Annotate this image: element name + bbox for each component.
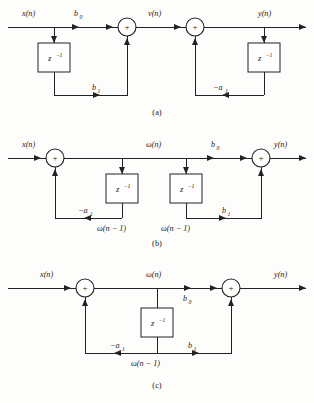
delay-block-b-left-exponent: −1 bbox=[124, 183, 131, 189]
label-b-output: y(n) bbox=[273, 140, 287, 149]
label-a-b0-subscript: 0 bbox=[80, 14, 83, 20]
label-a-b1: b bbox=[92, 83, 96, 92]
arrowhead-b-into-adder2 bbox=[240, 155, 247, 161]
label-c-a1-subscript: 1 bbox=[122, 346, 125, 352]
label-c-state-delayed: ω(n − 1) bbox=[131, 359, 160, 368]
arrowhead-a-into-delay-right bbox=[261, 36, 267, 43]
arrowhead-c-rail-into-adder1 bbox=[82, 299, 88, 306]
delay-block-a-right-exponent: −1 bbox=[266, 52, 273, 58]
arrowhead-b-into-delay-right bbox=[183, 167, 189, 174]
arrowhead-c-output bbox=[299, 285, 306, 291]
arrowhead-a-b0 bbox=[72, 24, 79, 30]
arrowhead-a-into-adder1 bbox=[106, 24, 113, 30]
delay-block-a-left[interactable] bbox=[38, 43, 70, 72]
adder-a-1-symbol: + bbox=[124, 22, 129, 32]
delay-block-a-right-label: z bbox=[257, 53, 262, 63]
label-a-a1-subscript: 1 bbox=[225, 88, 228, 94]
adder-c-1-symbol: + bbox=[82, 283, 87, 293]
caption-a: (a) bbox=[152, 108, 162, 117]
label-a-intermediate: v(n) bbox=[148, 9, 161, 18]
label-b-state-delayed-left: ω(n − 1) bbox=[97, 224, 126, 233]
label-b-b0-subscript: 0 bbox=[217, 145, 220, 151]
arrowhead-b-into-adder1 bbox=[34, 155, 41, 161]
delay-block-a-left-label: z bbox=[47, 53, 52, 63]
adder-a-2-symbol: + bbox=[192, 22, 197, 32]
arrowhead-b-rail-into-adder2 bbox=[258, 169, 264, 176]
arrowhead-b-b1-rail bbox=[219, 215, 226, 221]
arrowhead-b-b0 bbox=[207, 155, 214, 161]
adder-c-2-symbol: + bbox=[228, 283, 233, 293]
label-b-b0: b bbox=[211, 140, 215, 149]
delay-block-a-left-exponent: −1 bbox=[56, 52, 63, 58]
arrowhead-c-b0 bbox=[184, 285, 191, 291]
label-c-output: y(n) bbox=[273, 270, 287, 279]
panel-b: z −1 z −1 + + x(n) ω(n) b 0 y(n) −a 1 b … bbox=[8, 140, 306, 248]
arrowhead-c-rail-into-adder2 bbox=[228, 299, 234, 306]
adder-b-1-symbol: + bbox=[52, 153, 57, 163]
label-b-a1: −a bbox=[78, 206, 88, 215]
delay-block-b-right-label: z bbox=[179, 184, 184, 194]
adder-b-2-symbol: + bbox=[258, 153, 263, 163]
delay-block-b-right[interactable] bbox=[170, 174, 202, 203]
label-c-b1-subscript: 1 bbox=[194, 346, 197, 352]
label-a-b1-subscript: 1 bbox=[98, 88, 101, 94]
panel-c: z −1 + + x(n) ω(n) b 0 y(n) −a 1 b 1 ω(n… bbox=[8, 270, 306, 390]
delay-block-a-right[interactable] bbox=[248, 43, 280, 72]
arrowhead-a-output bbox=[299, 24, 306, 30]
label-a-output: y(n) bbox=[257, 9, 271, 18]
arrowhead-a-into-adder2 bbox=[174, 24, 181, 30]
delay-block-c-exponent: −1 bbox=[159, 317, 166, 323]
arrowhead-b-rail-into-adder1 bbox=[52, 169, 58, 176]
caption-c: (c) bbox=[152, 381, 162, 390]
delay-block-c-label: z bbox=[150, 318, 155, 328]
arrowhead-b-output bbox=[299, 155, 306, 161]
label-a-input: x(n) bbox=[21, 9, 35, 18]
label-b-a1-subscript: 1 bbox=[90, 211, 93, 217]
label-c-state: ω(n) bbox=[146, 270, 162, 279]
delay-block-b-left[interactable] bbox=[106, 174, 138, 203]
arrowhead-c-into-adder2 bbox=[210, 285, 217, 291]
figure-root: z −1 z −1 + + x(n) b 0 v(n) y(n) b 1 −a … bbox=[0, 0, 314, 403]
label-a-a1: −a bbox=[213, 83, 223, 92]
signal-flow-diagram-canvas: z −1 z −1 + + x(n) b 0 v(n) y(n) b 1 −a … bbox=[0, 0, 314, 403]
caption-b: (b) bbox=[152, 239, 162, 248]
delay-block-b-right-exponent: −1 bbox=[188, 183, 195, 189]
label-c-b1: b bbox=[188, 341, 192, 350]
delay-block-b-left-label: z bbox=[115, 184, 120, 194]
label-b-state: ω(n) bbox=[146, 140, 162, 149]
label-c-input: x(n) bbox=[39, 270, 53, 279]
label-b-input: x(n) bbox=[21, 140, 35, 149]
arrowhead-a-rail-into-adder1 bbox=[124, 38, 130, 45]
arrowhead-a-rail-into-adder2 bbox=[192, 38, 198, 45]
label-c-b0-subscript: 0 bbox=[189, 299, 192, 305]
label-c-a1: −a bbox=[110, 341, 120, 350]
label-b-b1: b bbox=[222, 206, 226, 215]
label-c-b0: b bbox=[183, 294, 187, 303]
label-b-state-delayed-right: ω(n − 1) bbox=[161, 224, 190, 233]
delay-block-c[interactable] bbox=[141, 308, 173, 337]
arrowhead-a-into-delay-left bbox=[51, 36, 57, 43]
arrowhead-b-into-delay-left bbox=[119, 167, 125, 174]
panel-a: z −1 z −1 + + x(n) b 0 v(n) y(n) b 1 −a … bbox=[8, 9, 306, 117]
arrowhead-c-a1-rail bbox=[114, 350, 121, 356]
arrowhead-c-input bbox=[64, 285, 71, 291]
label-b-b1-subscript: 1 bbox=[228, 211, 231, 217]
label-a-b0: b bbox=[74, 9, 78, 18]
